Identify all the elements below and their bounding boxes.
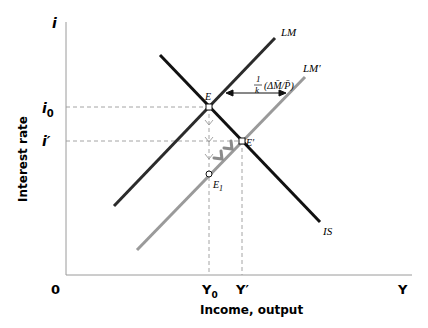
x-axis-symbol: Y	[397, 282, 408, 297]
tick-i-prime: i′	[42, 133, 51, 149]
origin-label: 0	[51, 282, 60, 297]
lm-prime-label: LM′	[302, 62, 321, 74]
islm-diagram: i Y 0 i0 i′ Y0 Y′ Income, output Interes…	[0, 0, 428, 328]
y-axis-symbol: i	[52, 15, 57, 31]
tick-i0: i0	[42, 100, 54, 119]
tick-y0: Y0	[201, 282, 218, 300]
point-e-prime	[239, 138, 245, 144]
x-axis-title: Income, output	[200, 303, 303, 317]
shift-label: 1 k (ΔM̄/P̄)	[254, 74, 294, 95]
point-e	[206, 104, 212, 110]
tick-y-prime: Y′	[235, 282, 249, 297]
lm-label: LM	[280, 26, 297, 38]
down-arrow-icons	[205, 120, 213, 159]
point-e1	[206, 171, 212, 177]
is-label: IS	[322, 225, 333, 237]
e-prime-label: E′	[245, 137, 255, 148]
lm-curve	[114, 38, 275, 206]
svg-text:1: 1	[256, 74, 261, 84]
e-label: E	[204, 91, 211, 102]
svg-text:(ΔM̄/P̄): (ΔM̄/P̄)	[264, 80, 294, 92]
e1-label: E1	[212, 179, 223, 193]
lm-prime-curve	[137, 77, 305, 250]
dashed-guides	[66, 107, 242, 275]
y-axis-title: Interest rate	[16, 116, 30, 202]
